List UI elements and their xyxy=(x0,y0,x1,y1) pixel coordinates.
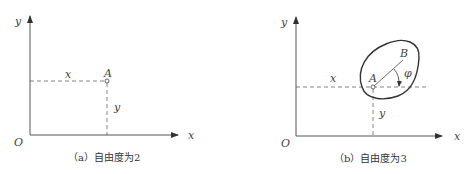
origin-label: O xyxy=(14,136,23,149)
segment-ab xyxy=(373,60,403,87)
y-coord-label: y xyxy=(378,107,386,120)
y-axis-label: y xyxy=(280,16,288,29)
y-axis-label: y xyxy=(14,15,22,28)
x-axis-label: x xyxy=(188,129,195,142)
x-axis-label: x xyxy=(454,130,461,143)
x-coord-label: x xyxy=(330,72,337,85)
point-a-marker xyxy=(371,85,375,89)
dof-diagram: y x O A x y （a）自由度为2 y x O A B φ x y （b）… xyxy=(0,0,467,174)
origin-label: O xyxy=(281,137,290,150)
x-coord-label: x xyxy=(65,68,72,81)
y-coord-label: y xyxy=(113,101,121,114)
point-b-label: B xyxy=(399,47,408,60)
caption-a: （a）自由度为2 xyxy=(68,151,140,163)
caption-b: （b）自由度为3 xyxy=(334,152,407,164)
point-a-label: A xyxy=(368,72,377,85)
angle-arc-arrow xyxy=(394,69,399,86)
figure-a: y x O A x y （a）自由度为2 xyxy=(14,15,195,163)
angle-phi-label: φ xyxy=(404,67,412,80)
point-a-label: A xyxy=(103,67,112,80)
figure-b: y x O A B φ x y （b）自由度为3 xyxy=(280,16,461,164)
